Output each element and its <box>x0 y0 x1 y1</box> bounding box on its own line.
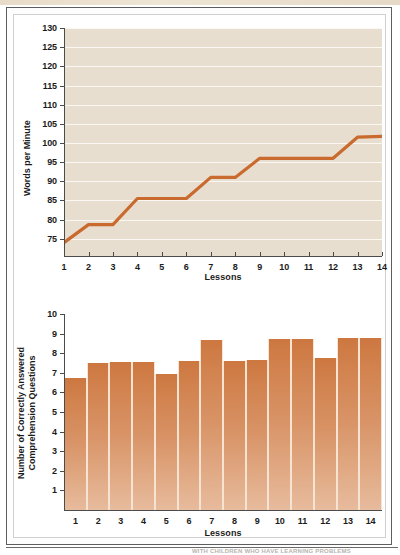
x-tick-mark <box>89 252 90 256</box>
y-tick-mark <box>60 200 64 201</box>
y-tick-mark <box>60 412 64 413</box>
y-tick-mark <box>60 66 64 67</box>
bar-chart-y-axis-title: Number of Correctly Answered Comprehensi… <box>16 320 38 506</box>
y-tick-mark <box>60 220 64 221</box>
y-tick-mark <box>60 451 64 452</box>
x-tick-label: 14 <box>372 262 392 272</box>
bar-chart-x-axis <box>64 510 382 511</box>
line-chart-y-axis <box>64 28 65 256</box>
y-tick-label: 120 <box>31 61 57 71</box>
y-tick-mark <box>60 105 64 106</box>
x-tick-label: 1 <box>54 262 74 272</box>
x-tick-label: 6 <box>179 516 199 526</box>
x-tick-label: 8 <box>224 516 244 526</box>
x-tick-label: 9 <box>250 262 270 272</box>
page-footer-caption: WITH CHILDREN WHO HAVE LEARNING PROBLEMS <box>192 548 400 555</box>
words-per-minute-line-chart: 7580859095100105110115120125130 12345678… <box>0 0 400 288</box>
y-tick-label: 80 <box>31 215 57 225</box>
x-tick-label: 3 <box>111 516 131 526</box>
x-tick-label: 7 <box>202 516 222 526</box>
y-tick-mark <box>60 47 64 48</box>
bar <box>132 362 155 510</box>
x-tick-mark <box>211 252 212 256</box>
y-tick-mark <box>60 373 64 374</box>
y-tick-label: 115 <box>31 81 57 91</box>
x-tick-label: 14 <box>361 516 381 526</box>
x-tick-mark <box>162 252 163 256</box>
y-tick-mark <box>60 490 64 491</box>
y-tick-mark <box>60 334 64 335</box>
x-tick-label: 2 <box>88 516 108 526</box>
bar <box>337 338 360 510</box>
y-tick-mark <box>60 471 64 472</box>
y-tick-mark <box>60 162 64 163</box>
y-tick-label: 130 <box>31 23 57 33</box>
x-tick-label: 11 <box>293 516 313 526</box>
x-tick-mark <box>333 252 334 256</box>
x-tick-label: 9 <box>247 516 267 526</box>
bar <box>109 362 132 510</box>
x-tick-mark <box>186 252 187 256</box>
x-tick-mark <box>358 252 359 256</box>
x-tick-mark <box>284 252 285 256</box>
x-tick-label: 5 <box>156 516 176 526</box>
x-tick-label: 2 <box>79 262 99 272</box>
y-tick-label: 100 <box>31 138 57 148</box>
bar-chart-y-axis <box>64 314 65 510</box>
line-chart-x-axis-title: Lessons <box>64 272 382 282</box>
y-tick-label: 10 <box>31 309 57 319</box>
x-tick-label: 11 <box>299 262 319 272</box>
y-tick-mark <box>60 314 64 315</box>
bar-chart-x-axis-title: Lessons <box>64 528 382 538</box>
x-tick-label: 7 <box>201 262 221 272</box>
x-tick-label: 4 <box>134 516 154 526</box>
line-chart-plot-area <box>64 28 382 256</box>
bar <box>200 340 223 510</box>
y-tick-mark <box>60 143 64 144</box>
bar <box>64 378 87 510</box>
x-tick-mark <box>382 252 383 256</box>
x-tick-label: 10 <box>270 516 290 526</box>
bar <box>223 361 246 510</box>
y-tick-label: 90 <box>31 176 57 186</box>
bar <box>178 361 201 510</box>
x-tick-mark <box>64 252 65 256</box>
x-tick-label: 6 <box>176 262 196 272</box>
line-chart-x-axis <box>64 256 382 257</box>
bar <box>268 339 291 511</box>
x-tick-label: 13 <box>348 262 368 272</box>
x-tick-label: 12 <box>323 262 343 272</box>
y-tick-mark <box>60 353 64 354</box>
y-tick-mark <box>60 392 64 393</box>
x-tick-mark <box>235 252 236 256</box>
bar <box>87 363 110 510</box>
x-tick-label: 10 <box>274 262 294 272</box>
y-tick-mark <box>60 432 64 433</box>
y-tick-label: 85 <box>31 195 57 205</box>
line-chart-series-path <box>64 28 382 256</box>
x-tick-label: 3 <box>103 262 123 272</box>
y-tick-mark <box>60 86 64 87</box>
y-tick-label: 75 <box>31 234 57 244</box>
x-tick-label: 4 <box>127 262 147 272</box>
x-tick-label: 8 <box>225 262 245 272</box>
bar <box>155 374 178 510</box>
line-chart-y-axis-title: Words per Minute <box>22 120 32 196</box>
bar-chart-plot-area <box>64 314 382 510</box>
x-tick-label: 1 <box>65 516 85 526</box>
x-tick-mark <box>309 252 310 256</box>
y-tick-label: 105 <box>31 119 57 129</box>
y-tick-label: 125 <box>31 42 57 52</box>
x-tick-mark <box>137 252 138 256</box>
y-tick-mark <box>60 28 64 29</box>
y-tick-label: 95 <box>31 157 57 167</box>
bar <box>291 339 314 511</box>
x-tick-label: 12 <box>315 516 335 526</box>
x-tick-mark <box>260 252 261 256</box>
comprehension-questions-bar-chart: 12345678910 1234567891011121314 Number o… <box>0 288 400 548</box>
bar <box>359 338 382 510</box>
y-tick-label: 110 <box>31 100 57 110</box>
y-tick-mark <box>60 239 64 240</box>
bar <box>246 360 269 510</box>
y-tick-mark <box>60 181 64 182</box>
